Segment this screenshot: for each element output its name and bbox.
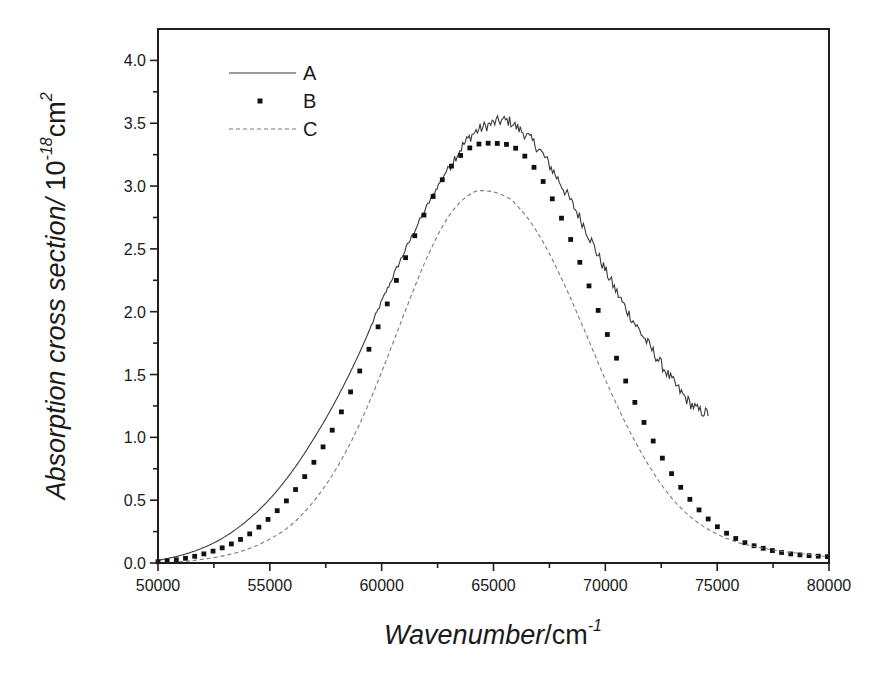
x-axis-title-exponent: -1 (588, 617, 602, 634)
series-b-marker (229, 542, 234, 547)
legend-item-b: B (258, 90, 317, 112)
series-b-marker (256, 525, 261, 530)
y-tick-label: 0.5 (124, 492, 146, 509)
series-b-marker (587, 283, 592, 288)
y-tick-label: 2.0 (124, 304, 146, 321)
series-b-marker (623, 379, 628, 384)
series-b-marker (559, 216, 564, 221)
series-b-marker (642, 420, 647, 425)
x-tick-label: 55000 (248, 577, 293, 594)
y-axis-title-unit2: cm (41, 101, 71, 137)
chart: 50000550006000065000700007500080000 0.00… (0, 0, 885, 685)
series-b-marker (275, 508, 280, 513)
series-b-marker (440, 177, 445, 182)
x-tick-label: 50000 (136, 577, 181, 594)
x-axis-title-unit: /cm (544, 620, 588, 650)
legend-item-a: A (229, 62, 317, 84)
series-b-marker (513, 146, 518, 151)
series-b-marker (238, 537, 243, 542)
series-b-marker (357, 369, 362, 374)
series-b-marker (266, 517, 271, 522)
y-tick-label: 2.5 (124, 241, 146, 258)
x-axis-title-main: Wavenumber (384, 620, 545, 650)
legend-label: C (303, 118, 317, 140)
series-b-marker (477, 142, 482, 147)
legend-marker-icon (258, 99, 263, 104)
y-tick-label: 3.5 (124, 115, 146, 132)
y-axis-title-main: Absorption cross section/ (41, 195, 71, 501)
series-b-marker (192, 554, 197, 559)
series-b-marker (247, 531, 252, 536)
series-b-marker (678, 485, 683, 490)
plot-series (156, 116, 830, 564)
y-tick-label: 1.0 (124, 429, 146, 446)
series-b-marker (394, 278, 399, 283)
x-tick-label: 65000 (471, 577, 516, 594)
series-b-marker (522, 154, 527, 159)
series-b-marker (174, 557, 179, 562)
x-tick-label: 80000 (807, 577, 852, 594)
series-b-marker (577, 260, 582, 265)
legend: ABC (229, 62, 317, 140)
x-tick-label: 75000 (695, 577, 740, 594)
series-c-line (158, 191, 829, 563)
series-b-marker (431, 194, 436, 199)
y-axis: 0.00.51.01.52.02.53.03.54.0 (124, 52, 158, 572)
series-b-marker (660, 456, 665, 461)
y-tick-label: 1.5 (124, 367, 146, 384)
series-b-marker (284, 498, 289, 503)
series-b-marker (376, 324, 381, 329)
series-b-marker (596, 308, 601, 313)
series-b-marker (532, 165, 537, 170)
line-chart: 50000550006000065000700007500080000 0.00… (0, 0, 885, 685)
x-tick-label: 70000 (583, 577, 628, 594)
legend-label: B (303, 90, 316, 112)
series-b-marker (422, 213, 427, 218)
series-b-marker (724, 531, 729, 536)
series-b-marker (403, 255, 408, 260)
series-b-marker (330, 428, 335, 433)
series-b-marker (486, 141, 491, 146)
series-b-marker (449, 164, 454, 169)
y-axis-title-exponent: -18 (38, 137, 55, 160)
y-tick-label: 0.0 (124, 555, 146, 572)
plot-frame (158, 29, 829, 563)
series-b-marker (715, 524, 720, 529)
series-b-marker (220, 545, 225, 550)
series-b-marker (550, 196, 555, 201)
series-b-marker (348, 390, 353, 395)
y-axis-title-unit: 10 (41, 160, 71, 198)
series-b-marker (651, 439, 656, 444)
series-b-marker (687, 497, 692, 502)
series-b-marker (183, 556, 188, 561)
series-b-marker (605, 332, 610, 337)
series-b-marker (568, 237, 573, 242)
series-b-marker (632, 400, 637, 405)
series-b-marker (201, 551, 206, 556)
y-axis-title-exponent2: 2 (38, 92, 55, 102)
series-b-marker (697, 508, 702, 513)
series-b-marker (339, 409, 344, 414)
series-b-marker (412, 233, 417, 238)
series-b-marker (293, 487, 298, 492)
series-b-marker (385, 302, 390, 307)
x-tick-label: 60000 (359, 577, 404, 594)
series-b-marker (302, 474, 307, 479)
series-b-marker (495, 141, 500, 146)
series-b-marker (816, 554, 821, 559)
y-axis-title: Absorption cross section/ 10-18cm2 (38, 92, 71, 501)
series-b-marker (211, 549, 216, 554)
x-axis: 50000550006000065000700007500080000 (136, 563, 852, 594)
series-b-marker (311, 460, 316, 465)
series-b-marker (733, 536, 738, 541)
series-b-marker (321, 444, 326, 449)
x-axis-title: Wavenumber/cm-1 (384, 617, 602, 650)
series-b-marker (669, 471, 674, 476)
y-tick-label: 4.0 (124, 52, 146, 69)
legend-label: A (303, 62, 317, 84)
series-a-line (158, 116, 708, 561)
series-b-marker (614, 356, 619, 361)
series-b-marker (458, 153, 463, 158)
series-b-marker (367, 347, 372, 352)
series-b-marker (504, 142, 509, 147)
